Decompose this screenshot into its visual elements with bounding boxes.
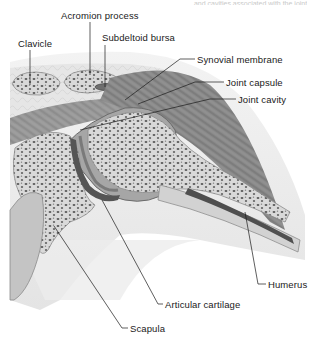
- label-synovial-membrane: Synovial membrane: [197, 54, 283, 65]
- label-clavicle: Clavicle: [18, 38, 52, 49]
- label-acromion-process: Acromion process: [61, 10, 139, 21]
- anatomy-illustration: [0, 0, 325, 347]
- label-humerus: Humerus: [268, 279, 307, 290]
- label-joint-cavity: Joint cavity: [238, 94, 286, 105]
- label-scapula: Scapula: [130, 323, 165, 334]
- label-joint-capsule: Joint capsule: [226, 77, 283, 88]
- label-subdeltoid-bursa: Subdeltoid bursa: [102, 32, 175, 43]
- shoulder-joint-diagram: … and cavities associated with the joint: [0, 0, 325, 347]
- label-articular-cartilage: Articular cartilage: [165, 299, 240, 310]
